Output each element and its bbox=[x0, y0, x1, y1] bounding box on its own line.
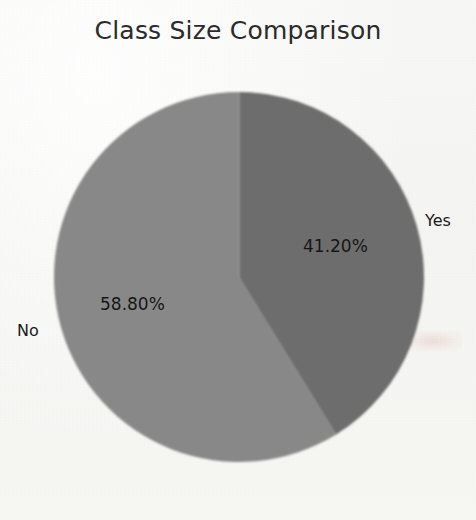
pie-chart: 41.20% 58.80% Yes No bbox=[0, 0, 476, 520]
pie-slice-value-no: 58.80% bbox=[100, 294, 165, 314]
pie-slice-value-yes: 41.20% bbox=[303, 236, 368, 256]
chart-page: Class Size Comparison 41.20% 58.80% Yes … bbox=[0, 0, 476, 520]
pie-chart-svg bbox=[0, 0, 476, 520]
pie-slice-label-no: No bbox=[17, 321, 39, 340]
pie-slice-label-yes: Yes bbox=[425, 211, 451, 230]
